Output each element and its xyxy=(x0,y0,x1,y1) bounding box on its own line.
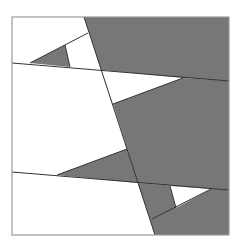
geometric-diagram xyxy=(0,0,241,245)
